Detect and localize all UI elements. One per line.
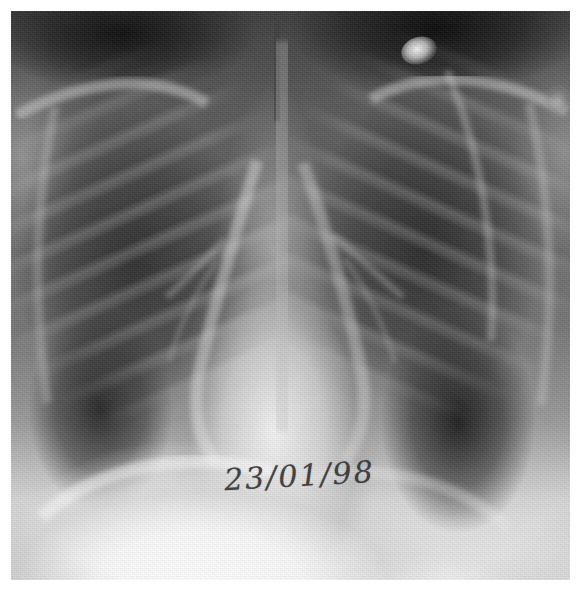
radiograph-image — [11, 11, 570, 580]
radiograph-viewer: 23/01/98 — [0, 0, 588, 593]
film-frame: 23/01/98 — [11, 11, 570, 580]
